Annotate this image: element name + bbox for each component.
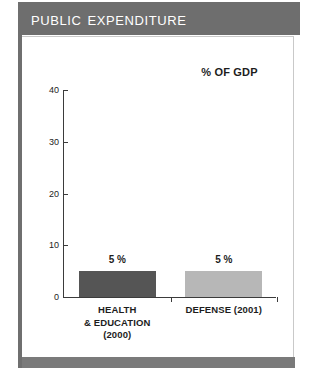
- category-label: DEFENSE (2001): [186, 304, 262, 317]
- figure-bottom-bar: [22, 357, 295, 368]
- bar-chart: % OF GDP 010203040 5 %5 % HEALTH& EDUCAT…: [22, 36, 294, 358]
- bar: [185, 271, 262, 297]
- public-expenditure-figure: Public expenditure % OF GDP 010203040 5 …: [0, 0, 318, 374]
- y-tick-label: 20: [25, 189, 59, 199]
- y-tick-mark: [63, 297, 68, 298]
- x-tick-mark: [171, 297, 172, 302]
- y-tick-label: 30: [25, 137, 59, 147]
- bar-value-label: 5 %: [215, 254, 232, 265]
- bars-layer: [64, 90, 277, 297]
- y-tick-label: 0: [25, 292, 59, 302]
- chart-subtitle: % OF GDP: [172, 66, 287, 78]
- category-label: HEALTH& EDUCATION(2000): [84, 304, 150, 342]
- bar-value-label: 5 %: [109, 254, 126, 265]
- y-tick-label: 10: [25, 240, 59, 250]
- page-title: Public expenditure: [20, 8, 187, 30]
- bar: [79, 271, 156, 297]
- figure-title-bar: Public expenditure: [20, 2, 300, 35]
- x-tick-mark: [277, 297, 278, 302]
- x-axis-line: [63, 297, 276, 298]
- y-tick-label: 40: [25, 85, 59, 95]
